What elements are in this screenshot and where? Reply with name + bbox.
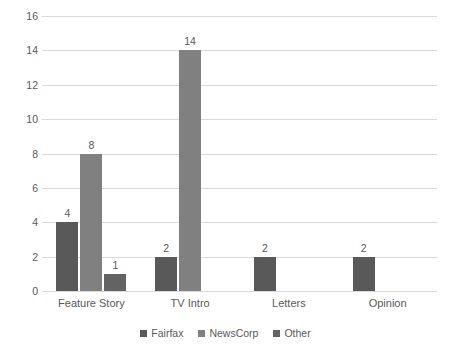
bar[interactable] — [80, 154, 102, 292]
y-axis-tick-label: 2 — [4, 251, 38, 262]
legend-label: Fairfax — [151, 328, 183, 339]
y-axis-tick-label: 0 — [4, 286, 38, 297]
bar[interactable] — [353, 257, 375, 291]
legend-swatch-icon — [198, 330, 205, 337]
bar[interactable] — [104, 274, 126, 291]
bar-value-label: 14 — [184, 36, 196, 47]
legend-item[interactable]: NewsCorp — [198, 328, 258, 339]
bar-value-label: 8 — [88, 140, 94, 151]
y-axis-tick-label: 14 — [4, 45, 38, 56]
gridline — [42, 50, 437, 51]
legend-label: Other — [284, 328, 310, 339]
axis-baseline — [42, 291, 437, 292]
bar-value-label: 2 — [163, 243, 169, 254]
bar-chart: 0246810121416 48121422 Feature StoryTV I… — [0, 0, 451, 350]
y-axis-tick-label: 6 — [4, 183, 38, 194]
y-axis-tick-label: 12 — [4, 80, 38, 91]
plot-area: 48121422 — [42, 16, 437, 291]
y-axis-tick-label: 10 — [4, 114, 38, 125]
chart-legend: FairfaxNewsCorpOther — [0, 325, 451, 341]
x-axis-category-label: Feature Story — [58, 298, 125, 309]
bar[interactable] — [179, 50, 201, 291]
y-axis-tick-label: 8 — [4, 148, 38, 159]
bar-value-label: 1 — [112, 260, 118, 271]
y-axis-tick-label: 16 — [4, 11, 38, 22]
x-axis-category-label: TV Intro — [171, 298, 210, 309]
bar[interactable] — [254, 257, 276, 291]
legend-item[interactable]: Other — [273, 328, 310, 339]
x-axis: Feature StoryTV IntroLettersOpinion — [42, 294, 437, 316]
legend-item[interactable]: Fairfax — [140, 328, 183, 339]
y-axis-tick-label: 4 — [4, 217, 38, 228]
legend-label: NewsCorp — [209, 328, 258, 339]
x-axis-category-label: Letters — [272, 298, 306, 309]
bar[interactable] — [155, 257, 177, 291]
gridline — [42, 85, 437, 86]
bar-value-label: 2 — [262, 243, 268, 254]
legend-swatch-icon — [273, 330, 280, 337]
gridline — [42, 16, 437, 17]
gridline — [42, 119, 437, 120]
bar-value-label: 2 — [361, 243, 367, 254]
y-axis: 0246810121416 — [0, 16, 38, 291]
bar-value-label: 4 — [64, 208, 70, 219]
x-axis-category-label: Opinion — [369, 298, 407, 309]
bar[interactable] — [56, 222, 78, 291]
legend-swatch-icon — [140, 330, 147, 337]
